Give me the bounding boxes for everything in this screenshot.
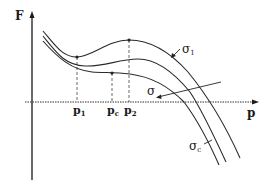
curve-sigma [43, 36, 226, 162]
pointer-sigma-arrow-icon [156, 95, 162, 100]
x-axis-label: p [247, 106, 255, 120]
label-pc: pc [107, 104, 119, 118]
label-sigma1: σ1 [182, 42, 195, 57]
label-p2: p2 [124, 104, 137, 118]
x-marker-labels: p1 pc p2 [73, 104, 137, 118]
x-axis: p [25, 100, 259, 121]
points [75, 38, 130, 74]
point-p1 [75, 55, 78, 58]
y-axis-label: F [15, 9, 24, 23]
point-pc [110, 71, 113, 74]
y-axis-arrow-icon [30, 11, 35, 18]
curve-labels: σ1 σ σc [147, 42, 221, 154]
x-axis-arrow-icon [252, 100, 259, 105]
y-axis: F [15, 9, 35, 180]
pointer-sigma [158, 82, 221, 97]
curves [43, 31, 240, 165]
label-sigma: σ [147, 84, 155, 98]
free-energy-diagram: F p [0, 0, 276, 184]
label-sigmac: σc [189, 139, 201, 154]
curve-sigma1 [43, 31, 240, 158]
label-p1: p1 [73, 104, 86, 118]
point-p2 [127, 38, 130, 41]
